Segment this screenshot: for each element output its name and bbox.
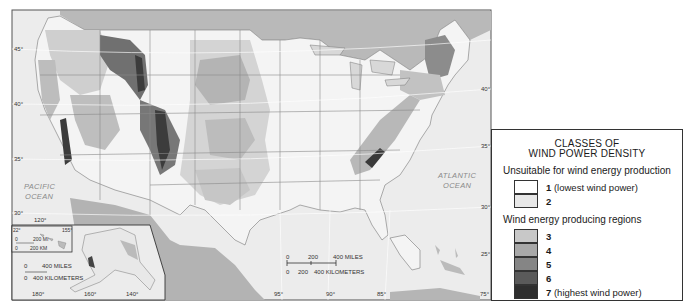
svg-text:120°: 120°: [34, 217, 47, 223]
pacific-ocean-label-2: OCEAN: [25, 192, 53, 201]
swatch-class-4: [514, 243, 538, 257]
swatch-group-unsuitable: 1 (lowest wind power) 2: [514, 180, 682, 208]
lat-label-right-25: 25°: [481, 251, 491, 257]
svg-text:140°: 140°: [126, 291, 139, 297]
svg-text:200 MI: 200 MI: [33, 236, 48, 242]
svg-text:180°: 180°: [32, 291, 45, 297]
swatch-class-5: [514, 257, 538, 271]
legend-class-1: 1 (lowest wind power): [514, 180, 682, 194]
svg-text:400 KILOMETERS: 400 KILOMETERS: [33, 275, 83, 281]
svg-text:160°: 160°: [84, 291, 97, 297]
svg-text:400 KILOMETERS: 400 KILOMETERS: [314, 269, 364, 275]
lat-label-30: 30°: [14, 210, 24, 216]
lon-label-85: 85°: [377, 291, 387, 297]
lat-label-45: 45°: [14, 46, 24, 52]
svg-text:0: 0: [15, 236, 18, 242]
legend-class-6: 6: [514, 271, 682, 285]
swatch-class-6: [514, 271, 538, 285]
atlantic-ocean-label-2: OCEAN: [443, 181, 471, 190]
svg-text:200: 200: [298, 269, 309, 275]
legend-group-producing: Wind energy producing regions: [503, 214, 682, 225]
swatch-class-7: [514, 285, 538, 299]
lon-label-95: 95°: [274, 291, 284, 297]
legend-class-7: 7 (highest wind power): [514, 285, 682, 299]
lat-label-right-30: 30°: [481, 204, 491, 210]
legend-class-4: 4: [514, 243, 682, 257]
swatch-group-producing: 3 4 5 6 7 (highest wind power): [514, 229, 682, 299]
svg-text:22°: 22°: [13, 227, 21, 233]
lon-label-90: 90°: [326, 291, 336, 297]
svg-text:155°: 155°: [62, 227, 72, 233]
svg-text:200 KM: 200 KM: [30, 245, 47, 251]
lat-label-40: 40°: [14, 101, 24, 107]
svg-text:200: 200: [308, 254, 319, 260]
legend-title: CLASSES OF WIND POWER DENSITY: [492, 139, 682, 159]
pacific-ocean-label: PACIFIC: [24, 182, 55, 191]
legend-class-3: 3: [514, 229, 682, 243]
swatch-class-2: [514, 194, 538, 208]
swatch-class-1: [514, 180, 538, 194]
svg-text:400 MILES: 400 MILES: [333, 254, 363, 260]
hawaii-inset: 22° 155° 0 200 MI 0 200 KM: [12, 226, 72, 252]
lat-label-right-35: 35°: [481, 143, 491, 149]
svg-text:0: 0: [15, 245, 18, 251]
atlantic-ocean-label: ATLANTIC: [437, 171, 476, 180]
swatch-class-3: [514, 229, 538, 243]
legend-group-unsuitable: Unsuitable for wind energy production: [503, 165, 682, 176]
lon-label-75: 75°: [480, 291, 490, 297]
wind-power-legend: CLASSES OF WIND POWER DENSITY Unsuitable…: [491, 129, 683, 301]
lat-label-35: 35°: [14, 156, 24, 162]
svg-text:400 MILES: 400 MILES: [42, 263, 72, 269]
lat-label-right-40: 40°: [481, 86, 491, 92]
legend-class-2: 2: [514, 194, 682, 208]
legend-class-5: 5: [514, 257, 682, 271]
